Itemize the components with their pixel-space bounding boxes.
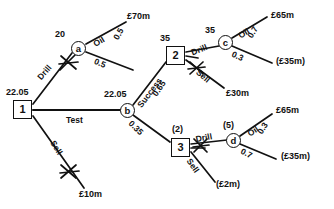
node-d-label: d	[231, 136, 237, 146]
decision-node-3[interactable]: 3	[171, 138, 190, 157]
chance-node-d[interactable]: d	[226, 133, 241, 148]
node-1-label: 1	[19, 104, 25, 115]
node-c-label: c	[223, 38, 228, 48]
node-c-value: 35	[205, 26, 215, 35]
node-b-label: b	[125, 106, 131, 116]
decision-tree-diagram: 1 a b 2 c 3 d 22.05 20 22.05 35 35 (2) (…	[0, 0, 334, 209]
decision-node-1[interactable]: 1	[13, 100, 32, 119]
node-2-label: 2	[172, 50, 178, 61]
payoff-sell-1: £10m	[79, 190, 102, 199]
node-b-value: 22.05	[104, 90, 127, 99]
payoff-d-dry: (£35m)	[281, 152, 310, 161]
node-a-value: 20	[55, 30, 65, 39]
chance-node-c[interactable]: c	[218, 35, 233, 50]
decision-node-2[interactable]: 2	[166, 46, 185, 65]
chance-node-a[interactable]: a	[71, 41, 86, 56]
node-a-label: a	[76, 44, 81, 54]
payoff-a-oil: £70m	[127, 12, 150, 21]
chance-node-b[interactable]: b	[120, 103, 135, 118]
branch-label-test: Test	[66, 116, 83, 125]
payoff-sell-2: £30m	[226, 89, 249, 98]
node-3-label: 3	[177, 142, 183, 153]
node-d-value: (5)	[223, 121, 234, 130]
node-1-value: 22.05	[6, 88, 29, 97]
payoff-sell-3: (£2m)	[216, 180, 240, 189]
node-2-value: 35	[160, 34, 170, 43]
node-3-value: (2)	[172, 125, 183, 134]
payoff-c-oil: £65m	[271, 11, 294, 20]
payoff-d-oil: £65m	[276, 106, 299, 115]
payoff-c-dry: (£35m)	[276, 57, 305, 66]
